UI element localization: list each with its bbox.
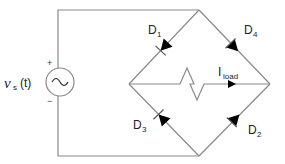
load-current-subscript: load bbox=[223, 72, 238, 81]
wires bbox=[58, 10, 270, 156]
d1-label: D bbox=[148, 23, 157, 37]
source-argument: (t) bbox=[20, 76, 31, 90]
minus-label: − bbox=[47, 96, 52, 106]
ac-voltage-source: + − v s (t) bbox=[4, 58, 74, 106]
plus-label: + bbox=[47, 58, 52, 68]
current-arrow-icon bbox=[228, 80, 236, 88]
bridge-rectifier-diagram: + − v s (t) D 1 D 4 D 3 D 2 I load bbox=[0, 0, 285, 164]
load-resistor bbox=[129, 68, 270, 100]
bottom-wire bbox=[58, 96, 199, 156]
d3-index: 3 bbox=[142, 125, 147, 134]
d1-index: 1 bbox=[157, 30, 162, 39]
source-symbol: v bbox=[4, 75, 11, 91]
d2-index: 2 bbox=[257, 130, 262, 139]
d3-label: D bbox=[133, 118, 142, 132]
top-wire bbox=[58, 10, 199, 68]
source-subscript: s bbox=[13, 83, 17, 92]
d4-index: 4 bbox=[253, 30, 258, 39]
load-current-letter: I bbox=[218, 65, 221, 79]
d2-label: D bbox=[248, 123, 257, 137]
d4-label: D bbox=[244, 23, 253, 37]
